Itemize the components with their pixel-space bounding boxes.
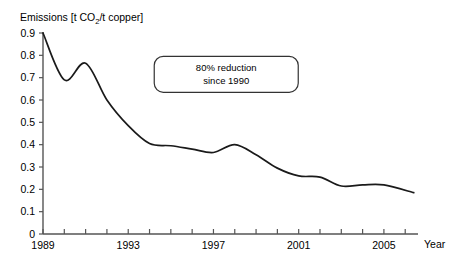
y-axis-tick-label: 0.6 — [20, 94, 35, 106]
y-axis-tick-label: 0.3 — [20, 161, 35, 173]
x-axis-tick-label: 2001 — [287, 239, 311, 251]
x-axis-tick-label: 2005 — [372, 239, 396, 251]
x-axis-tick-label: 1989 — [31, 239, 55, 251]
x-axis-tick-label: 1997 — [202, 239, 226, 251]
y-axis-tick-label: 0.9 — [20, 27, 35, 39]
annotation-line: 80% reduction — [196, 62, 257, 73]
y-axis-tick-label: 0.7 — [20, 71, 35, 83]
y-axis-tick-label: 0.2 — [20, 183, 35, 195]
x-axis-title: Year — [424, 238, 446, 250]
y-axis-tick-label: 0.8 — [20, 49, 35, 61]
y-axis-tick-label: 0.5 — [20, 116, 35, 128]
chart-background — [0, 0, 453, 268]
chart-canvas: 00.10.20.30.40.50.60.70.80.9 19891993199… — [0, 0, 453, 268]
annotation-line: since 1990 — [203, 75, 249, 86]
y-axis-tick-label: 0 — [29, 228, 35, 240]
x-axis-tick-label: 1993 — [117, 239, 141, 251]
y-axis-tick-label: 0.4 — [20, 138, 35, 150]
y-axis-tick-label: 0.1 — [20, 205, 35, 217]
emissions-line-chart: 00.10.20.30.40.50.60.70.80.9 19891993199… — [0, 0, 453, 268]
annotation-group: 80% reductionsince 1990 — [154, 56, 298, 92]
